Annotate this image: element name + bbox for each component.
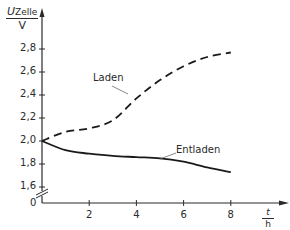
series-label-entladen: Entladen (176, 145, 220, 155)
y-tick-label: 2,8 (6, 43, 36, 53)
y-origin-label: 0 (30, 198, 36, 208)
entladen-leader-line (160, 153, 176, 159)
series-laden-line (42, 53, 231, 142)
y-axis-subscript: Zelle (15, 7, 37, 17)
y-tick-label: 2,4 (6, 89, 36, 99)
y-tick-label: 2,0 (6, 135, 36, 145)
y-tick-label: 1,6 (6, 181, 36, 191)
y-axis-unit: V (6, 19, 38, 31)
line-chart (0, 0, 290, 230)
x-axis-symbol: t (262, 208, 274, 219)
x-axis-label: t h (262, 208, 274, 229)
y-tick-label: 1,8 (6, 158, 36, 168)
y-axis-arrow-icon (40, 8, 45, 17)
y-axis-label: UZelle V (6, 6, 38, 31)
x-tick-label: 2 (81, 210, 97, 220)
x-tick-label: 6 (176, 210, 192, 220)
y-axis-symbol: U (7, 5, 15, 18)
x-axis-arrow-icon (279, 201, 289, 206)
y-tick-label: 2,2 (6, 112, 36, 122)
x-tick-label: 8 (223, 210, 239, 220)
laden-leader-line (112, 86, 128, 94)
y-tick-label: 2,6 (6, 66, 36, 76)
x-axis-unit: h (262, 219, 274, 229)
x-tick-label: 4 (128, 210, 144, 220)
series-label-laden: Laden (93, 73, 124, 83)
